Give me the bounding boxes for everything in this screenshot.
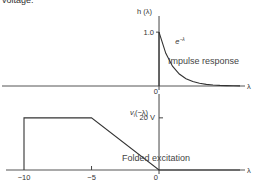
- top-x-tick-label: 0: [154, 87, 158, 96]
- folded-excitation-panel: vi(−λ) λ 20 V −10−50 Folded excitation: [6, 94, 251, 182]
- bottom-x-axis-label: λ: [247, 166, 251, 175]
- top-x-axis-label: λ: [247, 82, 251, 91]
- bottom-y-tick-label: 20 V: [140, 113, 155, 122]
- header-text: voltage.: [2, 0, 34, 5]
- impulse-response-panel: h (λ) λ 1.0 0 e−λ Impulse response: [2, 7, 251, 96]
- top-y-axis-label: h (λ): [137, 7, 153, 16]
- exp-annotation: e−λ: [175, 36, 185, 46]
- chart-figure: voltage. h (λ) λ 1.0 0 e−λ Impulse respo…: [0, 0, 255, 186]
- top-y-tick-label: 1.0: [144, 28, 154, 37]
- bottom-x-tick-label: −5: [87, 173, 96, 182]
- impulse-response-caption: Impulse response: [168, 56, 239, 66]
- bottom-x-tick-label: 0: [154, 173, 158, 182]
- folded-excitation-caption: Folded excitation: [122, 153, 190, 163]
- bottom-x-tick-label: −10: [18, 173, 31, 182]
